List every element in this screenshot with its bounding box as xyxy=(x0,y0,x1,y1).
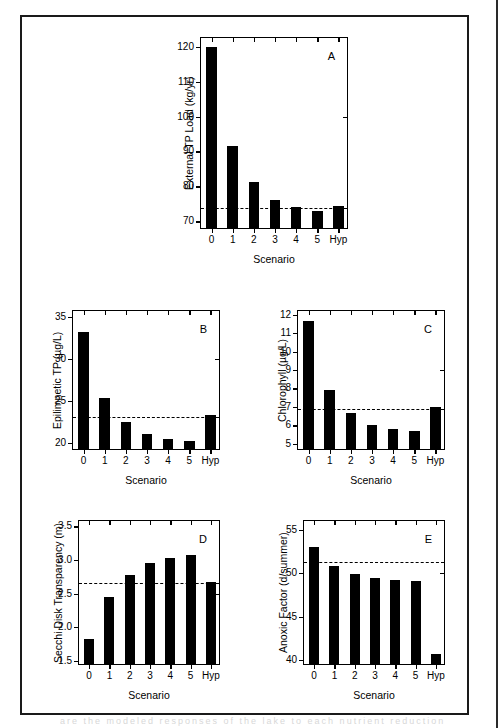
bar-d-1 xyxy=(104,597,114,664)
x-tick xyxy=(210,449,211,454)
x-tick-top xyxy=(147,311,148,315)
x-tick-top xyxy=(150,521,151,525)
bar-e-0 xyxy=(309,547,319,664)
right-edge-tick xyxy=(343,117,347,118)
bar-b-hyp xyxy=(205,415,216,449)
bar-e-3 xyxy=(370,578,380,664)
panel-c-plot-area: 56789101112012345HypC xyxy=(297,310,445,450)
x-tick-top xyxy=(355,521,356,525)
x-tick-top xyxy=(275,38,276,42)
bar-e-5 xyxy=(411,581,421,664)
x-tick xyxy=(296,228,297,233)
y-axis-title-c: Chlorophyll (µg/L) xyxy=(276,338,288,421)
x-tick-top xyxy=(296,38,297,42)
x-tick-top xyxy=(436,521,437,525)
x-tick-label: 2 xyxy=(123,456,129,466)
x-tick xyxy=(233,228,234,233)
x-tick-label: 5 xyxy=(412,456,418,466)
x-tick-top xyxy=(351,311,352,315)
x-tick-top xyxy=(416,521,417,525)
y-tick-a-2 xyxy=(196,151,201,152)
x-tick-label: Hyp xyxy=(202,671,220,681)
x-tick-label: 0 xyxy=(306,456,312,466)
y-tick-label: 5 xyxy=(285,439,291,449)
x-tick-label: 4 xyxy=(390,456,396,466)
x-tick-top xyxy=(211,521,212,525)
bar-c-3 xyxy=(367,425,378,450)
x-tick-label: 3 xyxy=(372,671,378,681)
panel-a-plot-area: 708090100110120012345HypA xyxy=(200,37,348,229)
x-tick-top xyxy=(189,311,190,315)
x-tick-top xyxy=(168,311,169,315)
y-tick-a-1 xyxy=(196,186,201,187)
y-tick-label: 20 xyxy=(55,438,66,448)
x-tick-top xyxy=(254,38,255,42)
bar-b-5 xyxy=(184,441,195,449)
bar-b-1 xyxy=(99,398,110,449)
x-tick xyxy=(372,449,373,454)
x-tick xyxy=(414,449,415,454)
y-tick-a-5 xyxy=(196,47,201,48)
x-tick xyxy=(147,449,148,454)
bar-b-3 xyxy=(142,434,153,449)
reference-line-e xyxy=(304,562,444,563)
x-axis-title-d: Scenario xyxy=(128,689,169,701)
x-tick-top xyxy=(314,521,315,525)
y-tick-e-0 xyxy=(299,660,304,661)
y-tick-d-0 xyxy=(74,661,79,662)
x-tick-label: Hyp xyxy=(427,456,445,466)
x-tick xyxy=(275,228,276,233)
x-tick-label: 1 xyxy=(332,671,338,681)
bar-c-1 xyxy=(324,390,335,449)
x-tick-label: 4 xyxy=(165,456,171,466)
x-tick-top xyxy=(210,311,211,315)
reference-line-d xyxy=(79,583,219,584)
x-tick-label: 5 xyxy=(413,671,419,681)
y-tick-a-3 xyxy=(196,117,201,118)
y-tick-c-4 xyxy=(293,370,298,371)
y-axis-title-d: Secchi Disk Transparency (m) xyxy=(52,522,64,662)
x-tick xyxy=(309,449,310,454)
x-tick xyxy=(150,664,151,669)
bar-a-5 xyxy=(312,211,323,228)
bar-d-3 xyxy=(145,563,155,664)
reference-line-b xyxy=(73,417,219,418)
x-tick-label: 3 xyxy=(369,456,375,466)
y-tick-d-3 xyxy=(74,560,79,561)
x-tick xyxy=(395,664,396,669)
x-tick-label: 1 xyxy=(107,671,113,681)
x-tick-top xyxy=(170,521,171,525)
bar-a-3 xyxy=(270,200,281,228)
x-tick-label: 1 xyxy=(327,456,333,466)
right-edge-tick xyxy=(440,573,444,574)
x-tick-label: 0 xyxy=(311,671,317,681)
x-tick-top xyxy=(84,311,85,315)
panel-b: 20253035012345HypB ScenarioEpilimnetic T… xyxy=(40,300,240,490)
x-axis-title-a: Scenario xyxy=(253,253,294,265)
y-tick-b-3 xyxy=(68,317,73,318)
y-tick-d-2 xyxy=(74,594,79,595)
x-tick xyxy=(89,664,90,669)
bar-d-2 xyxy=(125,575,135,664)
x-tick-top xyxy=(130,521,131,525)
x-tick-label: 1 xyxy=(230,235,236,245)
x-tick xyxy=(317,228,318,233)
y-axis-title-e: Anoxic Factor (d/summer) xyxy=(277,532,289,653)
x-tick xyxy=(84,449,85,454)
panel-letter-a: A xyxy=(328,50,335,62)
x-tick-top xyxy=(338,38,339,42)
x-tick-label: Hyp xyxy=(427,671,445,681)
bar-e-1 xyxy=(329,566,339,664)
x-tick xyxy=(338,228,339,233)
panel-d: 1.52.02.53.03.5012345HypD ScenarioSecchi… xyxy=(40,510,240,700)
x-tick-top xyxy=(393,311,394,315)
bar-e-4 xyxy=(390,580,400,664)
y-tick-a-0 xyxy=(196,221,201,222)
x-tick xyxy=(416,664,417,669)
x-tick-top xyxy=(330,311,331,315)
y-tick-d-1 xyxy=(74,627,79,628)
x-tick-top xyxy=(191,521,192,525)
bar-a-0 xyxy=(206,47,217,228)
x-tick xyxy=(191,664,192,669)
y-tick-e-1 xyxy=(299,617,304,618)
